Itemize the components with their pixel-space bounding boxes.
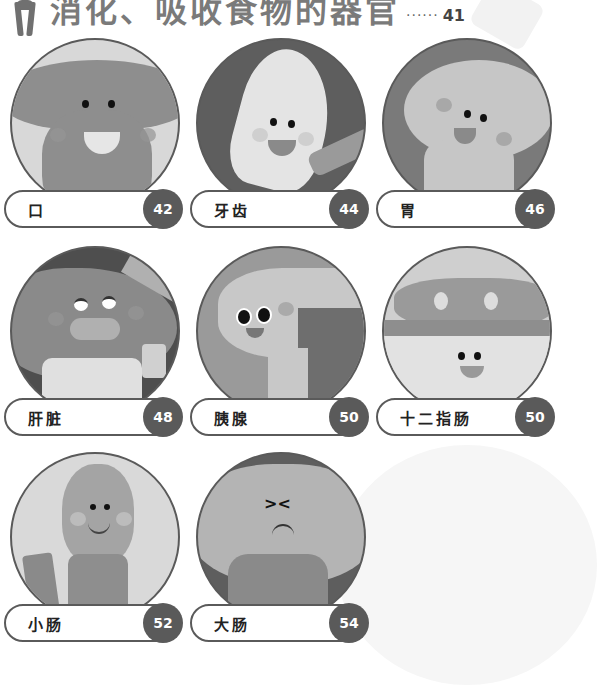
section-title: 消化、吸收食物的器官 [50, 0, 400, 29]
organ-name: 胃 [400, 199, 515, 220]
organ-name: 大肠 [214, 613, 329, 634]
organ-label-pill[interactable]: 小肠 52 [4, 604, 182, 642]
organ-card-pancreas[interactable]: 胰腺 50 [190, 246, 372, 451]
pancreas-character-illustration [196, 246, 366, 416]
page-number-badge: 48 [143, 397, 183, 437]
organ-name: 十二指肠 [400, 407, 515, 428]
organ-name: 小肠 [28, 613, 143, 634]
section-header: 消化、吸收食物的器官 ······ 41 [0, 0, 465, 36]
organ-label-pill[interactable]: 大肠 54 [190, 604, 368, 642]
organ-card-liver[interactable]: 肝脏 48 [4, 246, 186, 451]
organ-name: 口 [28, 199, 143, 220]
squint-eyes: >< [264, 494, 291, 513]
organ-card-small-intestine[interactable]: 小肠 52 [4, 452, 186, 657]
organ-name: 肝脏 [28, 407, 143, 428]
page-number-badge: 42 [143, 189, 183, 229]
leader-dots: ······ [406, 7, 439, 23]
organ-label-pill[interactable]: 十二指肠 50 [376, 398, 554, 436]
small-intestine-character-illustration [10, 452, 180, 622]
organ-card-teeth[interactable]: 牙齿 44 [190, 38, 372, 243]
organ-name: 牙齿 [214, 199, 329, 220]
organ-label-pill[interactable]: 牙齿 44 [190, 190, 368, 228]
organ-label-pill[interactable]: 肝脏 48 [4, 398, 182, 436]
duodenum-character-illustration [382, 246, 552, 416]
organ-label-pill[interactable]: 胃 46 [376, 190, 554, 228]
page-number-badge: 52 [143, 603, 183, 643]
stomach-character-illustration [382, 38, 552, 208]
organ-card-mouth[interactable]: 口 42 [4, 38, 186, 243]
mouth-character-illustration [10, 38, 180, 208]
page-number-badge: 46 [515, 189, 555, 229]
tooth-character-illustration [196, 38, 366, 208]
organ-card-stomach[interactable]: 胃 46 [376, 38, 558, 243]
section-page-number: 41 [443, 6, 465, 25]
page-number-badge: 54 [329, 603, 369, 643]
organ-label-pill[interactable]: 胰腺 50 [190, 398, 368, 436]
page-number-badge: 50 [515, 397, 555, 437]
organ-name: 胰腺 [214, 407, 329, 428]
large-intestine-character-illustration: >< [196, 452, 366, 622]
page-number-badge: 44 [329, 189, 369, 229]
section-marker-icon [12, 0, 42, 36]
organ-card-duodenum[interactable]: 十二指肠 50 [376, 246, 558, 451]
background-decoration [337, 445, 597, 685]
page-number-badge: 50 [329, 397, 369, 437]
organ-card-large-intestine[interactable]: >< 大肠 54 [190, 452, 372, 657]
organ-label-pill[interactable]: 口 42 [4, 190, 182, 228]
liver-character-illustration [10, 246, 180, 416]
